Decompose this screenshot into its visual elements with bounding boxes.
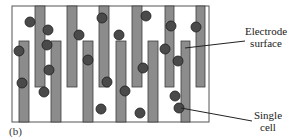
cell-icon (160, 44, 170, 54)
cell-label-line1: Single (250, 109, 286, 121)
cell-icon (96, 104, 106, 114)
electrode-finger-bottom (83, 41, 93, 122)
electrode-label-line1: Electrode (236, 25, 294, 37)
cell-icon (39, 87, 49, 97)
cell-icon (43, 25, 53, 35)
electrode-finger-top (67, 6, 77, 87)
cell-icon (114, 30, 124, 40)
electrode-finger-bottom (116, 41, 126, 122)
cell-icon (102, 77, 112, 87)
electrode-finger-bottom (51, 41, 61, 122)
cell-icon (17, 78, 27, 88)
cell-icon (14, 46, 24, 56)
cell-icon (173, 56, 183, 66)
electrode-label-line2: surface (236, 37, 294, 49)
cell-icon (44, 65, 54, 75)
single-cell-label: Single cell (250, 109, 286, 133)
cell-icon (138, 63, 148, 73)
electrode-finger-top (132, 6, 142, 87)
cell-icon (166, 21, 176, 31)
cell-label-line2: cell (250, 121, 286, 133)
cell-icon (42, 40, 52, 50)
cell-icon (120, 86, 130, 96)
electrode-finger-bottom (148, 41, 158, 122)
electrode-surface-label: Electrode surface (236, 25, 294, 49)
cell-icon (83, 55, 93, 65)
cell-icon (170, 91, 180, 101)
panel-label: (b) (9, 125, 22, 137)
cell-icon (25, 17, 35, 27)
cell-icon (74, 30, 84, 40)
cell-icon (191, 22, 201, 32)
cell-icon (141, 11, 151, 21)
cell-icon (97, 13, 107, 23)
cell-icon (135, 108, 145, 118)
